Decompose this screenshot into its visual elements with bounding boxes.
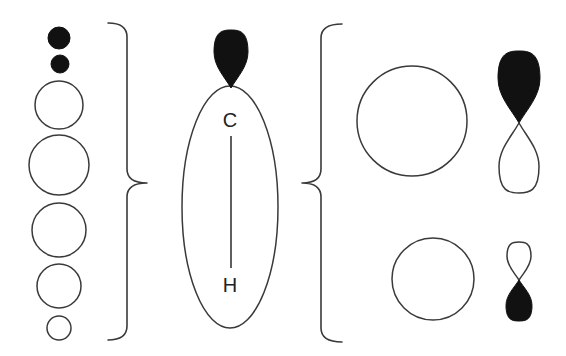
hydrogen-atom-label: H xyxy=(223,274,237,296)
orbital-circle-3 xyxy=(35,81,83,129)
filled-orbital-2 xyxy=(51,55,69,73)
filled-orbital-1 xyxy=(48,27,70,49)
orbital-diagram: C H xyxy=(0,0,566,356)
orbital-circle-4 xyxy=(29,135,89,195)
orbital-circle-5 xyxy=(32,203,86,257)
carbon-atom-label: C xyxy=(223,109,237,131)
orbital-circle-7 xyxy=(47,316,71,340)
upper-s-orbital xyxy=(357,66,467,176)
lower-s-orbital xyxy=(392,238,474,320)
orbital-circle-6 xyxy=(37,264,81,308)
